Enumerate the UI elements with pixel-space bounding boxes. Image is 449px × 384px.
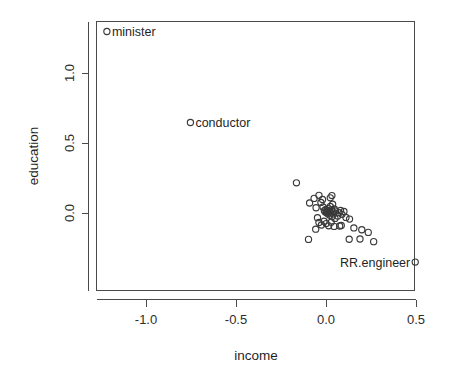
data-point	[357, 236, 363, 242]
data-point	[346, 236, 352, 242]
x-axis: -1.0 -0.5 0.0 0.5	[97, 300, 426, 328]
data-point	[351, 225, 357, 231]
point-label-rr-engineer: RR.engineer	[340, 256, 410, 270]
data-point	[371, 239, 377, 245]
x-tick-label: 0.5	[407, 312, 425, 327]
data-point	[313, 205, 319, 211]
scatter-plot-figure: -1.0 -0.5 0.0 0.5 1.0 0.5 0.0 income edu…	[0, 0, 449, 384]
plot-canvas: -1.0 -0.5 0.0 0.5 1.0 0.5 0.0 income edu…	[0, 0, 449, 384]
data-point	[359, 227, 365, 233]
point-label-conductor: conductor	[195, 116, 250, 130]
data-point	[104, 28, 110, 34]
y-axis: 1.0 0.5 0.0	[62, 22, 88, 291]
data-point	[313, 226, 319, 232]
x-tick-label: -0.5	[225, 312, 247, 327]
data-point	[316, 192, 322, 198]
y-tick-label: 0.0	[62, 204, 77, 222]
data-point	[412, 259, 418, 265]
data-point	[293, 180, 299, 186]
y-axis-title: education	[26, 127, 41, 186]
y-tick-label: 0.5	[62, 134, 77, 152]
x-tick-label: 0.0	[317, 312, 335, 327]
data-point	[365, 229, 371, 235]
point-label-minister: minister	[112, 25, 156, 39]
plot-panel-border	[97, 22, 415, 291]
data-point	[305, 236, 311, 242]
data-points-layer	[104, 28, 419, 265]
data-point	[187, 119, 193, 125]
y-tick-label: 1.0	[62, 64, 77, 82]
x-tick-label: -1.0	[135, 312, 157, 327]
x-axis-title: income	[234, 348, 278, 363]
